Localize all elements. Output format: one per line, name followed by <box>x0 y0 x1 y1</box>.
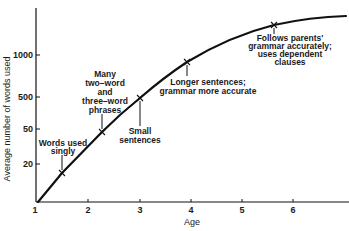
svg-text:sentences: sentences <box>119 135 161 145</box>
cross-marker-icon <box>99 129 105 135</box>
x-tick-label: 3 <box>137 205 142 215</box>
y-tick-label: 500 <box>18 92 33 102</box>
y-tick-label: 50 <box>23 124 33 134</box>
x-tick-label: 6 <box>290 205 295 215</box>
svg-text:clauses: clauses <box>274 57 305 67</box>
x-tick-label: 2 <box>85 205 90 215</box>
y-axis-title: Average number of words used <box>2 57 12 182</box>
svg-text:singly: singly <box>51 146 76 156</box>
svg-text:grammar more accurate: grammar more accurate <box>160 86 257 96</box>
cross-marker-icon <box>59 170 65 176</box>
y-tick-label: 20 <box>23 159 33 169</box>
x-tick-label: 4 <box>188 205 193 215</box>
annotation-small-sentences: Small sentences <box>119 126 161 145</box>
cross-marker-icon <box>137 95 143 101</box>
x-tick-label: 1 <box>32 205 37 215</box>
x-axis-title: Age <box>184 217 200 227</box>
vocabulary-growth-chart: 20 50 500 1000 1 2 3 4 5 6 Age Average n… <box>0 0 349 231</box>
x-tick-label: 5 <box>239 205 244 215</box>
annotation-follows-parents-grammar: Follows parents' grammar accurately; use… <box>248 33 332 67</box>
annotation-longer-sentences: Longer sentences; grammar more accurate <box>160 77 257 96</box>
annotation-many-phrases: Many two–word and three–word phrases <box>82 69 128 115</box>
y-tick-label: 1000 <box>13 50 33 60</box>
svg-text:phrases: phrases <box>89 105 122 115</box>
